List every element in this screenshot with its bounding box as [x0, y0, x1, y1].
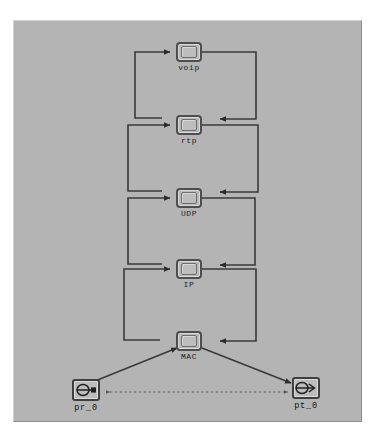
node-editor-window: voip rtp UDP IP MAC pr_0	[0, 0, 373, 429]
node-mac-label: MAC	[181, 352, 197, 361]
node-voip-label: voip	[178, 63, 200, 72]
node-rtp-label: rtp	[181, 136, 197, 145]
node-ip-label: IP	[184, 280, 195, 289]
link-voip-to-rtp[interactable]	[202, 52, 256, 119]
link-mac-to-ip[interactable]	[124, 269, 170, 340]
node-voip-face	[181, 46, 197, 58]
node-pt-0[interactable]	[292, 377, 320, 399]
link-rtp-to-voip[interactable]	[135, 52, 170, 118]
node-mac-face	[181, 335, 197, 347]
link-layer	[14, 21, 362, 422]
node-voip[interactable]	[176, 42, 202, 62]
link-udp-to-rtp[interactable]	[128, 125, 170, 191]
node-pr-0-label: pr_0	[74, 403, 98, 413]
node-udp[interactable]	[176, 188, 202, 208]
link-udp-to-ip[interactable]	[202, 198, 255, 265]
radio-receiver-icon	[75, 382, 97, 398]
link-ip-to-mac[interactable]	[202, 269, 256, 341]
link-ip-to-udp[interactable]	[128, 198, 170, 264]
node-udp-face	[181, 192, 197, 204]
node-ip[interactable]	[176, 259, 202, 279]
node-model-canvas[interactable]: voip rtp UDP IP MAC pr_0	[13, 20, 362, 422]
node-rtp[interactable]	[176, 115, 202, 135]
node-pt-0-label: pt_0	[294, 401, 318, 411]
radio-transmitter-icon	[295, 380, 317, 396]
link-pr0-to-mac[interactable]	[90, 348, 177, 383]
link-mac-to-pt0[interactable]	[202, 348, 291, 383]
node-udp-label: UDP	[181, 209, 197, 218]
link-rtp-to-udp[interactable]	[202, 125, 258, 192]
node-mac[interactable]	[176, 331, 202, 351]
node-ip-face	[181, 263, 197, 275]
node-pr-0[interactable]	[72, 379, 100, 401]
node-rtp-face	[181, 119, 197, 131]
